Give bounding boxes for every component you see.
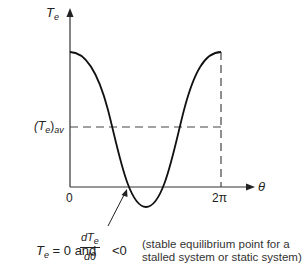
annotation-arrow	[108, 193, 125, 226]
derivative-fraction: dTe dθ	[80, 231, 100, 262]
derivative-inequality: <0	[112, 244, 127, 257]
origin-label: 0	[66, 192, 73, 204]
two-pi-label: 2π	[212, 192, 227, 204]
annotation-arrowhead-icon	[122, 189, 128, 197]
torque-angle-plot	[0, 0, 304, 273]
y-axis-arrow-icon	[67, 8, 74, 17]
torque-curve	[70, 52, 221, 207]
x-axis-arrow-icon	[246, 184, 255, 191]
stability-note: (stable equilibrium point for a stalled …	[142, 238, 302, 264]
stability-note-line-1: (stable equilibrium point for a	[142, 238, 302, 251]
average-torque-label: (Te)av	[34, 120, 64, 135]
y-axis-label: Te	[46, 6, 59, 22]
x-axis-label: θ	[258, 180, 265, 193]
stability-note-line-2: stalled system or static system)	[142, 251, 302, 264]
